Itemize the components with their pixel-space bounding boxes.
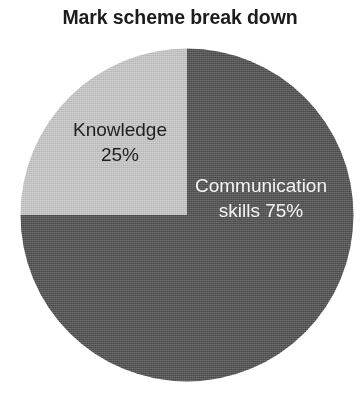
pie-label-communication-value: skills 75%	[180, 198, 342, 223]
chart-title: Mark scheme break down	[0, 5, 360, 29]
pie-label-knowledge: Knowledge 25%	[40, 117, 200, 167]
pie-label-knowledge-name: Knowledge	[40, 117, 200, 142]
pie-label-communication-skills: Communication skills 75%	[180, 173, 342, 223]
pie-label-communication-name: Communication	[180, 173, 342, 198]
pie-chart-figure: Mark scheme break down Knowledge 25% Com…	[0, 0, 360, 394]
pie-label-knowledge-value: 25%	[40, 142, 200, 167]
